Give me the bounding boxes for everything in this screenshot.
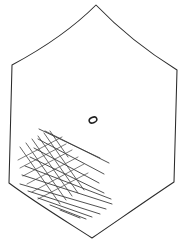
line-drawing-figure: [0, 0, 186, 246]
drawing-canvas: [0, 0, 186, 246]
